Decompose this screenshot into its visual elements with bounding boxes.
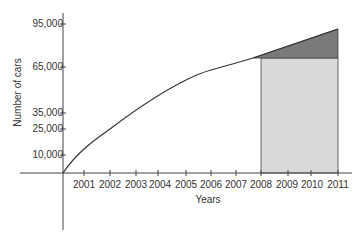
y-tick-label: 10,000 bbox=[32, 149, 63, 160]
y-tick-label: 25,000 bbox=[32, 123, 63, 134]
y-tick-label: 95,000 bbox=[32, 18, 63, 29]
x-tick-label: 2004 bbox=[149, 179, 171, 190]
x-tick-label: 2011 bbox=[327, 179, 349, 190]
x-tick-label: 2001 bbox=[73, 179, 95, 190]
y-tick-label: 35,000 bbox=[32, 107, 63, 118]
x-tick-label: 2010 bbox=[301, 179, 323, 190]
y-axis-title: Number of cars bbox=[12, 56, 23, 130]
x-tick-label: 2003 bbox=[125, 179, 147, 190]
x-axis-title: Years bbox=[195, 194, 220, 205]
x-tick-label: 2007 bbox=[225, 179, 247, 190]
x-tick-label: 2006 bbox=[200, 179, 222, 190]
x-tick-label: 2008 bbox=[250, 179, 272, 190]
x-tick-label: 2005 bbox=[175, 179, 197, 190]
x-tick-label: 2009 bbox=[276, 179, 298, 190]
y-tick-label: 65,000 bbox=[32, 61, 63, 72]
chart-canvas bbox=[0, 0, 363, 240]
area-rectangle bbox=[261, 58, 338, 173]
x-tick-label: 2002 bbox=[99, 179, 121, 190]
